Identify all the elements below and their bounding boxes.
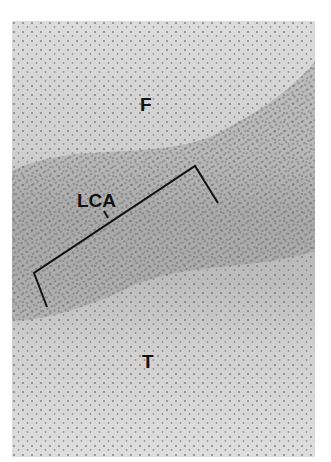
label-f: F	[140, 95, 152, 114]
label-lca: LCA	[77, 191, 116, 210]
tissue-background	[12, 21, 315, 457]
micrograph-image: F LCA T	[12, 21, 315, 457]
label-t: T	[142, 352, 154, 371]
